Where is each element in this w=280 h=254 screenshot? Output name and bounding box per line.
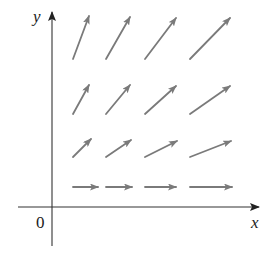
vector-arrow-r3-c3 <box>145 86 176 114</box>
vector-arrow-r3-c2 <box>106 85 130 114</box>
vector-arrow-r4-c3 <box>145 18 176 59</box>
vector-arrow-r2-c4 <box>190 141 231 157</box>
vector-arrow-r4-c2 <box>106 17 130 59</box>
vector-arrow-r3-c4 <box>190 86 230 114</box>
origin-label: 0 <box>36 214 45 231</box>
vector-arrow-r2-c1 <box>73 139 91 157</box>
vector-arrows <box>73 16 232 187</box>
vector-arrow-r3-c1 <box>73 85 89 114</box>
y-axis-label: y <box>33 8 41 25</box>
vector-arrow-r4-c4 <box>190 18 230 59</box>
vector-arrow-r2-c2 <box>106 140 131 157</box>
vector-field-diagram: y 0 x <box>0 0 280 254</box>
vector-arrow-r4-c1 <box>73 16 89 59</box>
x-axis-label: x <box>251 214 259 231</box>
vector-arrow-r2-c3 <box>145 141 177 157</box>
